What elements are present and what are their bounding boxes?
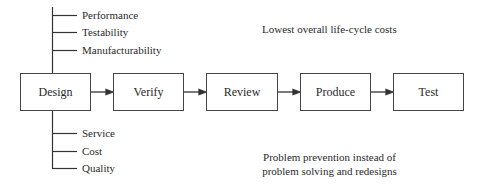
note-lifecycle-costs: Lowest overall life-cycle costs xyxy=(262,22,397,36)
note-line-1: Problem prevention instead of xyxy=(262,150,397,164)
attribute-manufacturability: Manufacturability xyxy=(82,44,161,56)
step-produce: Produce xyxy=(300,73,371,111)
attribute-testability: Testability xyxy=(82,26,128,38)
step-verify: Verify xyxy=(113,73,184,111)
attribute-service: Service xyxy=(82,127,115,139)
step-test: Test xyxy=(393,73,464,111)
attribute-cost: Cost xyxy=(82,145,102,157)
step-review: Review xyxy=(206,73,278,111)
attribute-performance: Performance xyxy=(82,9,138,21)
note-line-2: problem solving and redesigns xyxy=(262,164,397,178)
note-problem-prevention: Problem prevention instead of problem so… xyxy=(262,150,397,178)
step-design: Design xyxy=(20,73,91,111)
attribute-quality: Quality xyxy=(82,162,115,174)
